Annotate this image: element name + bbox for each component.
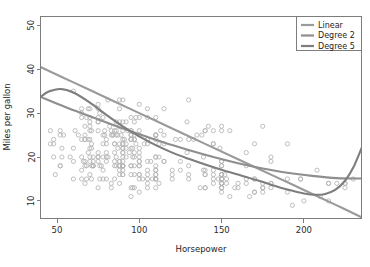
y-tick-label: 40 (27, 64, 37, 75)
chart-container: 50100150200 1020304050 Horsepower Miles … (0, 0, 370, 267)
regression-scatter-plot: 50100150200 1020304050 Horsepower Miles … (0, 0, 370, 267)
legend-label-degree-5[interactable]: Degree 5 (318, 42, 355, 51)
y-tick-label: 30 (27, 108, 37, 119)
y-tick-label: 50 (27, 20, 37, 31)
x-tick-label: 200 (296, 225, 312, 235)
chart-legend[interactable]: LinearDegree 2Degree 5 (297, 17, 362, 51)
x-tick-label: 150 (213, 225, 229, 235)
x-tick-label: 100 (131, 225, 147, 235)
y-tick-label: 20 (27, 152, 37, 163)
y-axis-title: Miles per gallon (2, 83, 12, 150)
y-tick-label: 10 (27, 195, 37, 206)
x-tick-label: 50 (52, 225, 63, 235)
x-axis-title: Horsepower (175, 244, 227, 254)
legend-label-degree-2[interactable]: Degree 2 (318, 31, 355, 40)
legend-label-linear[interactable]: Linear (318, 21, 344, 30)
